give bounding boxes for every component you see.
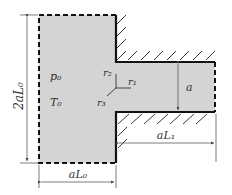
label-chamber-height: 2aL₀ <box>12 82 26 111</box>
label-r1: r₁ <box>128 76 137 87</box>
label-channel-length: aL₁ <box>157 129 175 142</box>
label-chamber-width: aL₀ <box>69 168 88 181</box>
label-r3: r₃ <box>97 97 106 108</box>
label-temperature: T₀ <box>50 96 62 109</box>
label-pressure: p₀ <box>50 70 62 83</box>
label-channel-width: a <box>186 81 193 94</box>
nozzle-diagram: 2aL₀ aL₀ aL₁ a p₀ T₀ r₂ r₁ r₃ <box>0 0 232 195</box>
label-r2: r₂ <box>103 67 112 78</box>
